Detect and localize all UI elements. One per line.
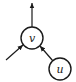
node-v-label: v (29, 32, 36, 45)
node-u: u (49, 58, 71, 80)
edge-u-to-v (40, 46, 53, 61)
node-v: v (21, 27, 43, 49)
node-u-label: u (56, 63, 63, 76)
graph-diagram: v u (0, 0, 76, 82)
edge-incoming-lower-left-to-v (6, 45, 23, 60)
